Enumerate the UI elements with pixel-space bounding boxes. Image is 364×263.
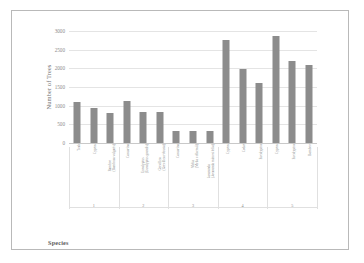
x-tick-label: Grevillea(Grevillea robusta)	[157, 144, 165, 171]
x-tick-label: Eucalyptus	[259, 144, 263, 160]
bar	[223, 40, 230, 143]
plot-area: 050010001500200025003000	[69, 31, 317, 143]
x-tick-label: Cyprus	[275, 144, 279, 154]
x-tick-label: Cyprus	[226, 144, 230, 154]
bar	[190, 131, 197, 143]
x-tick-label: Bamboo	[308, 144, 312, 156]
bar	[156, 112, 163, 143]
bar-series	[69, 31, 317, 143]
x-tick-label: Casuarina	[176, 144, 180, 158]
y-tick-label: 500	[57, 121, 65, 127]
y-axis-title: Number of Trees	[42, 31, 54, 143]
x-axis-group-labels: 12345	[69, 201, 317, 215]
bar	[289, 61, 296, 143]
x-tick-label: Bamboo(Bambusa vulgaris)	[108, 144, 116, 172]
group-label: 5	[291, 203, 293, 208]
y-tick-label: 3000	[55, 28, 65, 34]
bar	[123, 101, 130, 143]
bar	[90, 108, 97, 143]
group-label: 3	[192, 203, 194, 208]
bar	[272, 36, 279, 143]
y-tick-label: 2000	[55, 65, 65, 71]
bar	[206, 131, 213, 143]
x-tick-label: Casuarina	[126, 144, 130, 158]
bar	[107, 113, 114, 143]
bar	[256, 83, 263, 143]
x-tick-label: Teak	[77, 144, 81, 151]
y-tick-label: 2500	[55, 47, 65, 53]
x-tick-label: Eucalyptus	[292, 144, 296, 160]
chart-frame: Number of Trees 050010001500200025003000…	[11, 10, 349, 250]
bar	[173, 131, 180, 143]
bar	[239, 69, 246, 143]
x-tick-label: Jacaranda(Jacaranda mimosifolia)	[207, 144, 215, 178]
group-label: 1	[93, 203, 95, 208]
group-separator	[168, 147, 169, 209]
group-separator	[69, 147, 70, 209]
y-tick-label: 0	[62, 140, 65, 146]
bar	[140, 112, 147, 143]
x-axis-title: Species	[48, 239, 69, 246]
y-tick-label: 1500	[55, 84, 65, 90]
group-label: 4	[242, 203, 244, 208]
group-separator	[267, 147, 268, 209]
y-tick-label: 1000	[55, 103, 65, 109]
group-separator	[218, 147, 219, 209]
x-tick-label: Melia(Melia volkensii)	[190, 144, 198, 168]
bar	[74, 102, 81, 143]
x-axis-category-labels: TeakCyprusBamboo(Bambusa vulgaris)Casuar…	[69, 144, 317, 206]
x-tick-label: Cedar	[242, 144, 246, 152]
x-tick-label: Eucalyptus(Eucalyptus grandis)	[141, 144, 149, 173]
x-tick-label: Cyprus	[93, 144, 97, 154]
group-label: 2	[142, 203, 144, 208]
group-separator	[119, 147, 120, 209]
group-separator	[317, 147, 318, 209]
bar	[305, 65, 312, 143]
